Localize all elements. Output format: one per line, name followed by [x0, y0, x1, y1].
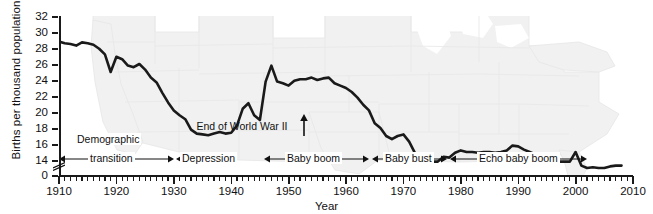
x-tick-2008: [621, 176, 622, 181]
x-tick-1949: [282, 176, 283, 181]
x-tick-1942: [242, 176, 243, 181]
x-tick-1971: [409, 176, 410, 181]
x-tick-1977: [443, 176, 444, 181]
x-tick-1917: [99, 176, 100, 181]
x-tick-1939: [225, 176, 226, 181]
x-tick-1987: [500, 176, 501, 181]
x-tick-label-2000: 2000: [551, 186, 601, 198]
x-tick-1926: [150, 176, 151, 181]
x-tick-1959: [340, 176, 341, 181]
x-tick-1980: [460, 176, 462, 184]
x-tick-1910: [58, 176, 60, 184]
y-tick-26: [52, 64, 58, 66]
x-tick-1948: [277, 176, 278, 181]
x-tick-2000: [575, 176, 577, 184]
x-tick-1914: [81, 176, 82, 181]
x-tick-1957: [328, 176, 329, 181]
x-tick-1978: [449, 176, 450, 181]
x-tick-1958: [334, 176, 335, 181]
x-tick-1969: [397, 176, 398, 181]
x-tick-1947: [271, 176, 272, 181]
x-axis-title: Year: [0, 200, 653, 212]
x-tick-1956: [322, 176, 323, 181]
x-tick-1976: [437, 176, 438, 181]
x-tick-2005: [604, 176, 605, 181]
y-tick-label-28: 28: [8, 43, 48, 55]
x-tick-1943: [248, 176, 249, 181]
x-tick-1997: [558, 176, 559, 181]
x-tick-1981: [466, 176, 467, 181]
y-tick-24: [52, 80, 58, 82]
x-tick-2003: [592, 176, 593, 181]
x-tick-1913: [76, 176, 77, 181]
x-tick-1995: [546, 176, 547, 181]
x-tick-1966: [380, 176, 381, 181]
x-tick-1937: [213, 176, 214, 181]
x-tick-1988: [506, 176, 507, 181]
x-tick-1924: [139, 176, 140, 181]
x-tick-1989: [512, 176, 513, 181]
x-tick-1982: [472, 176, 473, 181]
x-tick-1996: [552, 176, 553, 181]
x-tick-1936: [208, 176, 209, 181]
x-tick-1961: [351, 176, 352, 181]
x-tick-1954: [311, 176, 312, 181]
x-tick-1919: [110, 176, 111, 181]
depression-label: Depression: [180, 152, 237, 164]
x-tick-1960: [345, 176, 347, 184]
y-tick-18: [52, 128, 58, 130]
x-tick-1933: [190, 176, 191, 181]
y-tick-28: [52, 48, 58, 50]
plot-area: Demographic transition Depression Baby b…: [59, 16, 633, 176]
x-tick-1952: [299, 176, 300, 181]
y-tick-label-18: 18: [8, 123, 48, 135]
x-tick-1931: [179, 176, 180, 181]
x-tick-1953: [305, 176, 306, 181]
y-tick-22: [52, 96, 58, 98]
x-tick-1994: [541, 176, 542, 181]
x-tick-1972: [414, 176, 415, 181]
x-tick-1984: [483, 176, 484, 181]
y-axis-break-icon: [53, 161, 65, 171]
x-tick-1928: [162, 176, 163, 181]
end-of-wwii-label: End of World War II: [152, 120, 332, 132]
x-tick-1970: [403, 176, 405, 184]
y-tick-20: [52, 112, 58, 114]
x-tick-2001: [581, 176, 582, 181]
x-tick-1929: [167, 176, 168, 181]
x-tick-1965: [374, 176, 375, 181]
x-tick-1920: [116, 176, 118, 184]
y-axis-line: [59, 16, 61, 176]
x-tick-1955: [317, 176, 318, 181]
demographic-transition-label-line2: transition: [88, 152, 135, 164]
x-tick-1967: [386, 176, 387, 181]
birth-rate-chart: Births per thousand population: [0, 0, 653, 214]
x-tick-1923: [133, 176, 134, 181]
y-tick-16: [52, 144, 58, 146]
x-tick-1999: [569, 176, 570, 181]
x-tick-1912: [70, 176, 71, 181]
x-tick-1974: [426, 176, 427, 181]
baby-boom-label: Baby boom: [285, 152, 342, 164]
x-tick-2010: [632, 176, 634, 184]
x-tick-1921: [122, 176, 123, 181]
y-tick-32: [52, 16, 58, 18]
y-tick-label-16: 16: [8, 139, 48, 151]
y-tick-label-30: 30: [8, 27, 48, 39]
x-tick-label-1940: 1940: [206, 186, 256, 198]
x-tick-label-1990: 1990: [493, 186, 543, 198]
x-tick-1975: [432, 176, 433, 181]
x-tick-1990: [518, 176, 520, 184]
x-tick-label-1970: 1970: [378, 186, 428, 198]
y-tick-label-32: 32: [8, 11, 48, 23]
x-tick-label-2010: 2010: [608, 186, 653, 198]
x-tick-label-1960: 1960: [321, 186, 371, 198]
x-tick-1938: [219, 176, 220, 181]
x-tick-1915: [87, 176, 88, 181]
x-tick-label-1980: 1980: [436, 186, 486, 198]
x-tick-1983: [477, 176, 478, 181]
x-tick-1973: [420, 176, 421, 181]
x-tick-1918: [104, 176, 105, 181]
x-tick-1991: [523, 176, 524, 181]
x-tick-1986: [495, 176, 496, 181]
